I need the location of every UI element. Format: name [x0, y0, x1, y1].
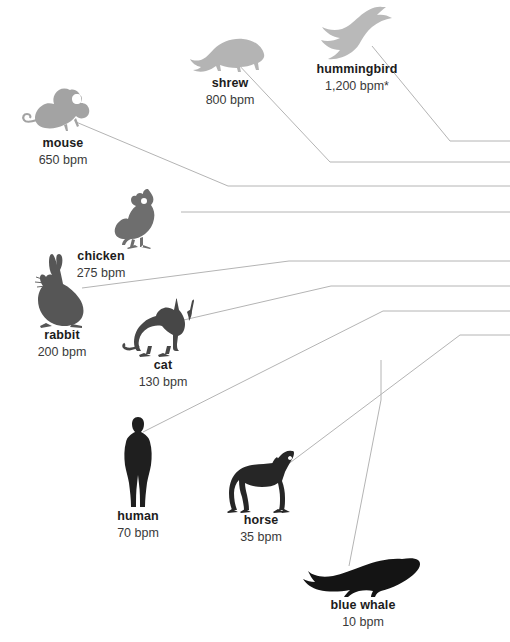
animal-value-blue-whale: 10 bpm: [283, 614, 443, 630]
animal-label-blue-whale: blue whale: [283, 598, 443, 614]
animal-label-cat: cat: [88, 358, 238, 374]
animal-node-mouse[interactable]: mouse 275 bpm 650 bpm: [0, 84, 138, 168]
animal-label-mouse: mouse: [0, 136, 138, 152]
mouse-icon: [20, 84, 106, 136]
animal-value-cat: 130 bpm: [88, 374, 238, 390]
rabbit-icon: [32, 252, 92, 328]
blue-whale-icon: [298, 556, 428, 598]
shrew-icon: [188, 34, 272, 76]
animal-label-horse: horse: [186, 513, 336, 529]
human-icon: [118, 415, 158, 509]
horse-icon: [220, 447, 302, 513]
leader-line-blue-whale: [349, 360, 381, 566]
leader-line-mouse: [76, 122, 510, 186]
chicken-icon: [110, 187, 172, 249]
hummingbird-icon: [312, 4, 402, 62]
animal-label-shrew: shrew: [155, 76, 305, 92]
animal-value-horse: 35 bpm: [186, 529, 336, 545]
animal-value-shrew: 800 bpm: [155, 92, 305, 108]
animal-node-cat[interactable]: cat 130 bpm: [88, 296, 238, 390]
animal-node-shrew[interactable]: shrew 800 bpm: [155, 34, 305, 108]
leader-line-horse: [287, 335, 510, 465]
cat-icon: [122, 296, 204, 358]
animal-node-horse[interactable]: horse 35 bpm: [186, 447, 336, 545]
animal-node-blue-whale[interactable]: blue whale 10 bpm: [283, 556, 443, 630]
animal-value-mouse-bpm: 650 bpm: [0, 152, 138, 168]
heart-rate-infographic: hummingbird 1,200 bpm* shrew 800 bpm mou…: [0, 0, 510, 642]
